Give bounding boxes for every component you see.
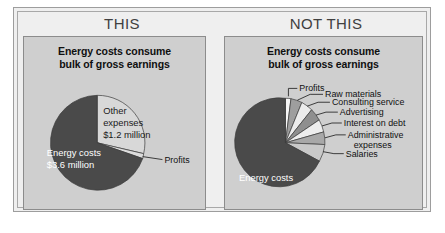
leader-line-salaries (323, 152, 344, 154)
pie-callout-advertising: Advertising (340, 107, 384, 117)
leader-line-raw-materials (297, 94, 323, 100)
leader-line-profits (143, 157, 163, 160)
figure-root: THIS NOT THIS Energy costs consume bulk … (0, 0, 445, 233)
pie-callout-administrative-expenses-line1: Administrative (348, 130, 404, 140)
pie-callout-profits: Profits (299, 83, 325, 93)
leader-line-profits (288, 88, 297, 96)
pie-callout-salaries: Salaries (346, 149, 379, 159)
pie-label-energy-costs-line1: Energy costs (47, 147, 102, 158)
leader-line-interest-on-debt (322, 123, 342, 126)
panel-good-example: Energy costs consume bulk of gross earni… (23, 36, 206, 210)
pie-chart-bad: Energy costs Profits Raw materials Consu… (225, 37, 422, 209)
pie-callout-consulting-service: Consulting service (332, 97, 405, 107)
pie-callout-profits: Profits (164, 155, 190, 165)
leader-line-administrative-expenses (325, 135, 346, 138)
pie-chart-good: Other expenses $1.2 million Energy costs… (24, 37, 205, 209)
pie-label-energy-costs: Energy costs (239, 172, 294, 183)
panel-bad-example: Energy costs consume bulk of gross earni… (224, 36, 423, 210)
pie-label-other-expenses-line2: expenses (103, 117, 143, 128)
pie-label-other-expenses-value: $1.2 million (103, 129, 150, 140)
column-heading-not-this: NOT THIS (228, 14, 424, 33)
leader-line-advertising (316, 112, 338, 115)
leader-line-consulting-service (307, 102, 330, 106)
column-heading-this: THIS (24, 14, 220, 33)
pie-callout-interest-on-debt: Interest on debt (344, 118, 406, 128)
pie-label-other-expenses-line1: Other (103, 105, 126, 116)
pie-label-energy-costs-value: $3.6 million (47, 159, 94, 170)
